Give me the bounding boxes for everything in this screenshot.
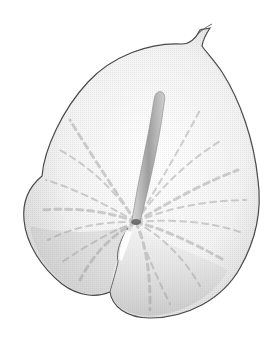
anthurium-illustration bbox=[0, 0, 279, 346]
anthurium-image bbox=[0, 0, 279, 346]
spathe-center bbox=[131, 219, 141, 225]
